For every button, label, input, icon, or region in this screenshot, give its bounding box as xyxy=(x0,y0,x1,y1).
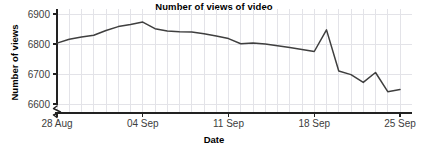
svg-text:25 Sep: 25 Sep xyxy=(384,118,416,129)
svg-text:6800: 6800 xyxy=(28,39,51,50)
y-axis xyxy=(53,9,57,105)
x-tick-labels: 28 Aug04 Sep11 Sep18 Sep25 Sep xyxy=(41,118,416,129)
svg-text:6700: 6700 xyxy=(28,69,51,80)
chart-page: Number of views of video Number of views… xyxy=(0,0,428,151)
svg-text:18 Sep: 18 Sep xyxy=(298,118,330,129)
line-chart-plot: 6600670068006900 28 Aug04 Sep11 Sep18 Se… xyxy=(0,0,428,151)
svg-text:04 Sep: 04 Sep xyxy=(127,118,159,129)
svg-text:6900: 6900 xyxy=(28,9,51,20)
svg-text:11 Sep: 11 Sep xyxy=(213,118,244,129)
grid-lines xyxy=(57,9,412,113)
x-axis xyxy=(55,113,412,117)
svg-text:6600: 6600 xyxy=(28,99,51,110)
svg-text:28 Aug: 28 Aug xyxy=(41,118,72,129)
y-tick-labels: 6600670068006900 xyxy=(28,9,51,110)
